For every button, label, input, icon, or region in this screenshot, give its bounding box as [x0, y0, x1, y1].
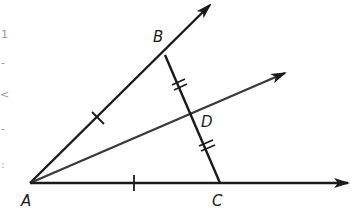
- edge-artifact: -: [1, 122, 5, 135]
- edge-artifact: -: [1, 56, 5, 69]
- label-point-B: B: [153, 28, 163, 46]
- edge-artifact: :: [1, 158, 5, 171]
- geometry-diagram: 1 - < - : B D A C: [0, 0, 364, 216]
- label-point-D: D: [201, 113, 213, 131]
- ray-AD: [30, 73, 285, 183]
- tick-mark-AB: [92, 112, 104, 124]
- label-point-A: A: [20, 192, 31, 210]
- label-point-C: C: [212, 192, 223, 210]
- edge-artifact: <: [0, 88, 9, 101]
- edge-artifact: 1: [1, 28, 8, 41]
- left-edge-artifacts: 1 - < - :: [0, 28, 9, 171]
